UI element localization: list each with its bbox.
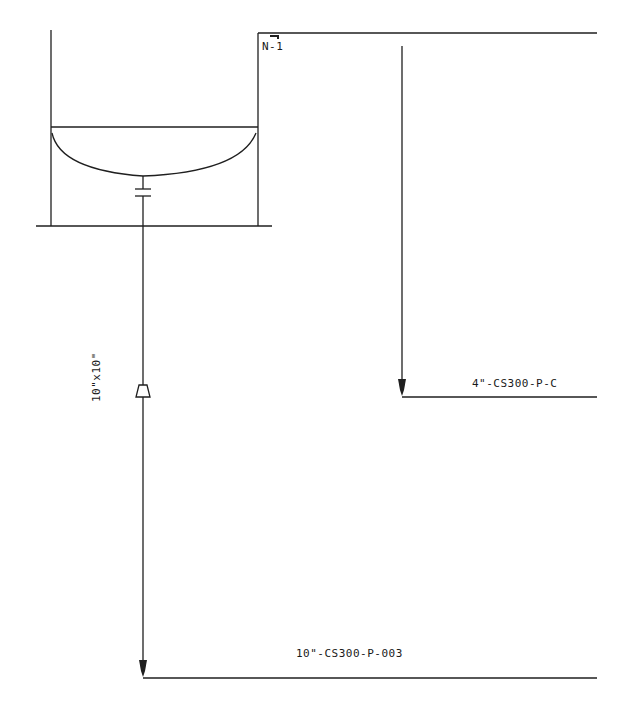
pipe-label-lower: 10"-CS300-P-003: [296, 647, 403, 660]
nozzle-label: N-1: [262, 40, 283, 53]
flow-arrow-icon: [139, 660, 147, 677]
reducer-icon: [136, 385, 150, 397]
reducer-label: 10"x10": [90, 352, 103, 402]
vessel-bottom-head: [52, 133, 256, 176]
flow-arrow-icon: [398, 379, 406, 396]
nozzle-mark-icon: [270, 36, 278, 39]
pipe-label-upper: 4"-CS300-P-C: [472, 377, 557, 390]
